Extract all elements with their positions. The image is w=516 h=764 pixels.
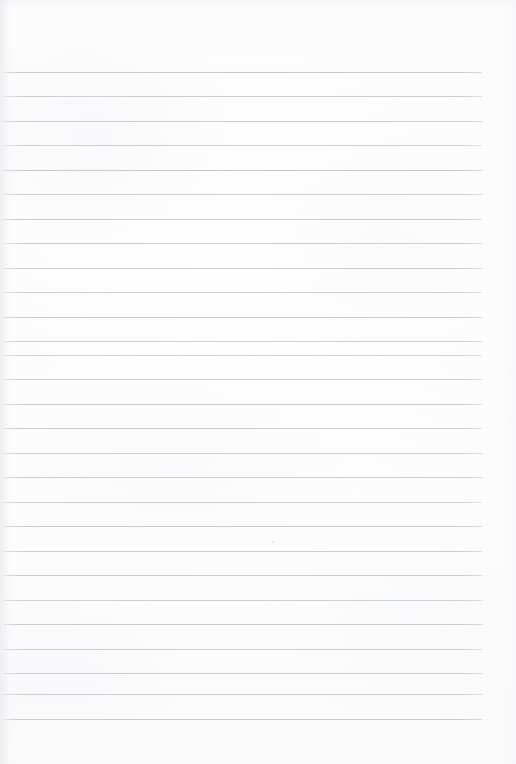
ruled-line: [4, 624, 483, 625]
ruled-line: [4, 719, 482, 720]
scanned-page: [0, 0, 516, 764]
ruled-line: [4, 72, 482, 73]
ruled-line: [4, 673, 483, 674]
ruled-line: [4, 379, 483, 380]
ruled-line: [4, 145, 482, 146]
ruled-line: [3, 317, 483, 318]
ruled-line: [4, 243, 483, 244]
ruled-line: [3, 121, 483, 122]
ruled-line: [3, 649, 482, 650]
scan-speck: [418, 652, 419, 653]
ruled-line: [3, 219, 482, 220]
ruled-line: [3, 600, 483, 601]
ruled-line: [4, 526, 483, 527]
ruled-line: [3, 170, 483, 171]
ruled-line: [3, 694, 483, 695]
ruled-line: [4, 96, 483, 97]
ruled-line: [3, 502, 482, 503]
ruled-line: [3, 268, 483, 269]
ruled-line: [3, 404, 483, 405]
ruled-line: [4, 575, 482, 576]
ruled-line: [3, 355, 482, 356]
ruled-line: [4, 477, 483, 478]
ruled-line: [3, 453, 483, 454]
ruled-line: [4, 194, 483, 195]
ruled-lines-layer: [0, 0, 516, 764]
ruled-line: [3, 551, 483, 552]
scan-speck: [151, 386, 152, 387]
ruled-line: [4, 341, 483, 342]
scan-speck: [106, 289, 107, 290]
ruled-line: [4, 428, 482, 429]
ruled-line: [4, 292, 482, 293]
scan-speck: [272, 541, 274, 543]
